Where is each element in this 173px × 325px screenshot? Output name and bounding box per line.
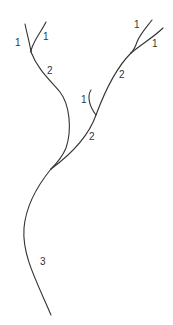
- label-main-reach: 3: [40, 256, 46, 267]
- label-left-tip-a: 1: [15, 37, 21, 48]
- label-right-tip-b: 1: [152, 38, 158, 49]
- label-small-tributary: 1: [81, 94, 87, 105]
- label-right-tip-a: 1: [134, 19, 140, 30]
- label-left-tip-b: 1: [43, 31, 49, 42]
- right-tributary-b: [131, 28, 163, 53]
- small-tributary-order-1: [89, 90, 96, 115]
- label-left-reach: 2: [47, 65, 53, 76]
- main-reach-order-3: [24, 169, 51, 315]
- stream-order-diagram: 1 1 2 1 1 2 1 2 3: [0, 0, 173, 325]
- left-tributary-a: [25, 24, 31, 52]
- label-right-reach-upper: 2: [119, 69, 125, 80]
- label-right-reach-lower: 2: [89, 131, 95, 142]
